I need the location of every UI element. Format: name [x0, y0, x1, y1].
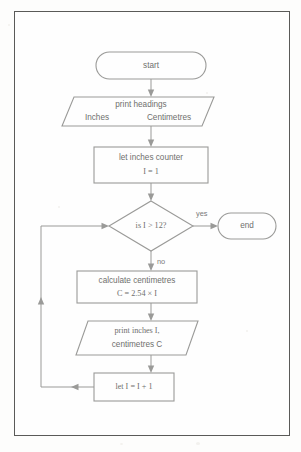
edge-label-no: no	[157, 257, 165, 266]
node-print-headings[interactable]: print headings Inches Centimetres	[62, 97, 214, 126]
connector-calculate-to-print-values	[148, 303, 154, 321]
connector-decision-to-calculate	[148, 251, 154, 271]
connector-print-headings-to-init-counter	[148, 126, 154, 147]
scan-artifact	[196, 442, 200, 445]
connector-start-to-print-headings	[148, 79, 154, 97]
node-start[interactable]: start	[96, 52, 206, 79]
node-increment[interactable]: let I = I + 1	[94, 373, 174, 401]
node-print-headings-col-inches: Inches	[85, 113, 109, 122]
scan-artifact	[206, 92, 208, 94]
scan-artifact	[8, 24, 10, 26]
node-start-label: start	[143, 61, 160, 70]
node-calculate-line2: C = 2.54 × I	[117, 289, 157, 298]
node-init-counter-line1: let inches counter	[119, 153, 183, 162]
node-print-headings-col-centimetres: Centimetres	[147, 113, 191, 122]
connector-loop-back-to-decision	[38, 223, 109, 390]
scan-artifact	[120, 443, 123, 445]
connector-print-values-to-increment	[148, 355, 154, 373]
connector-decision-to-end	[193, 223, 218, 229]
node-decision[interactable]: is I > 12?	[109, 201, 193, 251]
connector-init-counter-to-decision	[148, 183, 154, 201]
scan-artifact	[58, 206, 60, 208]
flowchart-canvas: start print headings Inches Centimetres …	[0, 0, 301, 452]
node-init-counter[interactable]: let inches counter I = 1	[94, 147, 208, 183]
node-calculate[interactable]: calculate centimetres C = 2.54 × I	[77, 271, 197, 303]
node-print-values-line2: centimetres C	[112, 340, 163, 349]
node-print-values-line1: print inches I,	[114, 326, 159, 335]
node-init-counter-line2: I = 1	[143, 167, 159, 176]
node-end[interactable]: end	[218, 213, 276, 239]
edge-label-yes: yes	[196, 209, 208, 218]
flowchart-page: start print headings Inches Centimetres …	[0, 0, 301, 452]
node-print-values[interactable]: print inches I, centimetres C	[76, 321, 198, 355]
node-print-headings-line1: print headings	[115, 100, 166, 109]
node-decision-label: is I > 12?	[136, 221, 167, 230]
node-end-label: end	[240, 221, 254, 230]
scan-artifact	[246, 330, 248, 332]
node-calculate-line1: calculate centimetres	[99, 276, 176, 285]
node-increment-label: let I = I + 1	[115, 382, 152, 391]
